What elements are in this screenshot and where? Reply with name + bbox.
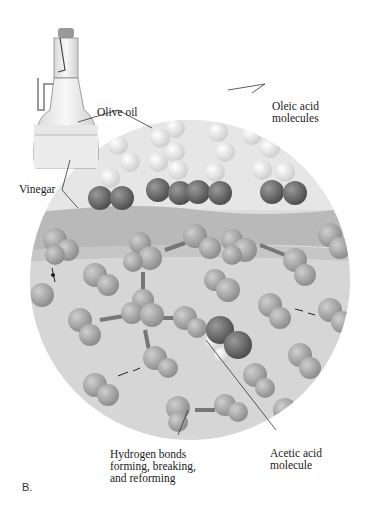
label-vinegar: Vinegar [19,183,55,195]
figure-canvas: Olive oil Vinegar Oleic acid molecules H… [0,0,375,511]
label-olive-oil: Olive oil [97,106,138,118]
olive-oil-bottle [34,28,98,168]
label-acetic-acid: Acetic acid molecule [270,447,322,471]
illustration [0,0,375,511]
label-oleic-acid: Oleic acid molecules [272,100,319,124]
label-hydrogen-bonds: Hydrogen bonds forming, breaking, and re… [110,448,196,484]
panel-label: B. [22,481,32,493]
